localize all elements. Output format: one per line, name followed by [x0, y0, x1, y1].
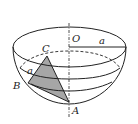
label-radius-a: a — [99, 35, 105, 46]
diagram-canvas: O a C a B A — [0, 0, 138, 124]
label-o: O — [72, 33, 80, 44]
label-side-a: a — [27, 65, 33, 76]
label-c: C — [42, 43, 50, 54]
hemisphere-diagram: O a C a B A — [0, 0, 138, 124]
latitude-1-back-dashed — [20, 51, 120, 68]
label-a: A — [71, 105, 79, 116]
label-b: B — [12, 80, 20, 91]
